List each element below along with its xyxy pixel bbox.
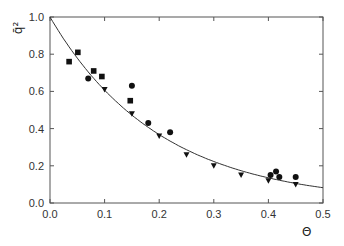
triangle-marker [265, 178, 271, 184]
circle-marker [167, 129, 173, 135]
square-marker [127, 98, 133, 104]
y-tick-label: 0.4 [29, 123, 44, 135]
triangle-marker [211, 163, 217, 169]
x-axis-label: Θ [302, 225, 311, 239]
square-marker [66, 59, 72, 65]
circle-marker [273, 168, 279, 174]
circle-marker [293, 174, 299, 180]
y-tick-label: 1.0 [29, 11, 44, 23]
fit-curve [50, 17, 323, 188]
circle-marker [85, 75, 91, 81]
triangle-marker [293, 182, 299, 188]
fit-line [50, 17, 323, 188]
y-tick-label: 0.8 [29, 48, 44, 60]
scatter-plot: 0.00.10.20.30.40.50.00.20.40.60.81.0 Θ q… [0, 0, 344, 246]
square-marker [99, 74, 105, 80]
x-tick-label: 0.0 [42, 208, 57, 220]
x-tick-label: 0.2 [152, 208, 167, 220]
circle-marker [276, 174, 282, 180]
y-tick-label: 0.6 [29, 85, 44, 97]
y-axis-label: q̄² [11, 22, 25, 35]
data-points [66, 50, 298, 188]
triangle-marker [238, 173, 244, 179]
triangle-marker [184, 152, 190, 158]
x-tick-label: 0.4 [261, 208, 276, 220]
x-tick-label: 0.1 [97, 208, 112, 220]
square-marker [75, 50, 81, 56]
y-tick-label: 0.2 [29, 160, 44, 172]
plot-frame [50, 17, 323, 203]
circle-marker [145, 120, 151, 126]
circle-marker [268, 172, 274, 178]
x-tick-label: 0.3 [206, 208, 221, 220]
circle-marker [129, 83, 135, 89]
axes: 0.00.10.20.30.40.50.00.20.40.60.81.0 [29, 11, 331, 220]
y-tick-label: 0.0 [29, 197, 44, 209]
square-marker [91, 68, 97, 74]
x-tick-label: 0.5 [315, 208, 330, 220]
